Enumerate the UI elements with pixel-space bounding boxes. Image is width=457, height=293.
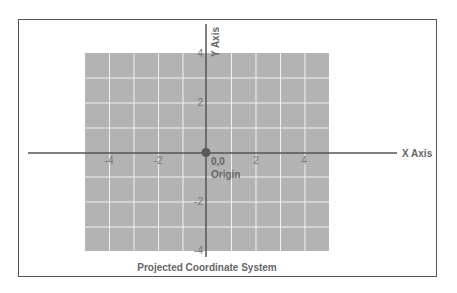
y-tick-label: 4 <box>197 48 203 59</box>
coordinate-diagram: -4 -2 2 4 4 2 -2 -4 0,0 Origin X Axis Y … <box>0 0 457 293</box>
y-tick-label: -4 <box>194 245 203 256</box>
y-tick-label: 2 <box>197 97 203 108</box>
x-tick-label: -4 <box>105 155 114 166</box>
origin-coords-label: 0,0 <box>211 156 225 167</box>
y-axis-label: Y Axis <box>210 27 221 57</box>
x-tick-label: -2 <box>154 155 163 166</box>
x-tick-label: 4 <box>301 155 307 166</box>
diagram-title: Projected Coordinate System <box>137 262 277 273</box>
x-tick-label: 2 <box>253 155 259 166</box>
origin-label: Origin <box>211 169 240 180</box>
y-tick-label: -2 <box>194 196 203 207</box>
x-axis-label: X Axis <box>402 148 433 159</box>
origin-point <box>202 148 211 157</box>
